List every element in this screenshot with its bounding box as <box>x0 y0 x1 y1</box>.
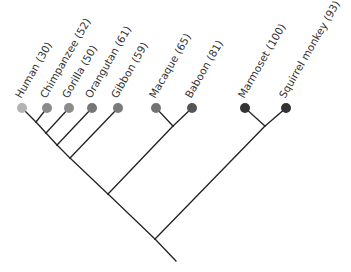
tree-leaves: Human (30)Chimpanzee (52)Gorilla (50)Ora… <box>12 0 342 113</box>
branch-n_ape-n_catarr <box>70 158 108 194</box>
branch-n_hc-n_hcg <box>36 122 46 133</box>
leaf-marmoset: Marmoset (100) <box>235 21 287 113</box>
leaf-label: Baboon (81) <box>182 38 225 100</box>
leaf-node-marker <box>42 103 52 113</box>
leaf-macaque: Macaque (65) <box>146 31 193 113</box>
tree-branches <box>22 108 286 261</box>
leaf-node-marker <box>113 103 123 113</box>
branch-n_mb-n_catarr <box>108 126 173 194</box>
branch-n_catarr-n_root <box>108 194 155 239</box>
branch-n_hcg-n_hcgo <box>46 133 57 145</box>
branch-n_ms-n_root <box>155 126 265 239</box>
leaf-node-marker <box>17 103 27 113</box>
leaf-node-marker <box>187 103 197 113</box>
leaf-node-marker <box>240 103 250 113</box>
branch-n_hcgo-n_ape <box>57 145 70 158</box>
phylogenetic-tree: Human (30)Chimpanzee (52)Gorilla (50)Ora… <box>0 0 351 272</box>
leaf-node-marker <box>87 103 97 113</box>
leaf-node-marker <box>151 103 161 113</box>
branch-orangutan-n_hcgo <box>57 108 92 145</box>
leaf-node-marker <box>281 103 291 113</box>
leaf-squirrel: Squirrel monkey (93) <box>276 0 342 113</box>
leaf-node-marker <box>64 103 74 113</box>
root-stem <box>155 239 176 261</box>
leaf-baboon: Baboon (81) <box>182 38 225 113</box>
branch-gibbon-n_ape <box>70 108 118 158</box>
leaf-label: Squirrel monkey (93) <box>276 0 342 100</box>
